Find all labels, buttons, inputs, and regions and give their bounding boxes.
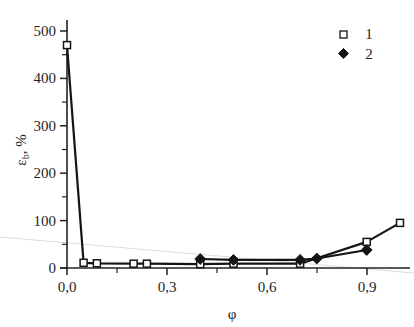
y-axis-title: εb, %: [13, 134, 31, 165]
data-point-marker: [93, 260, 100, 267]
svg-text:εb, %: εb, %: [13, 134, 31, 165]
data-point-marker: [130, 260, 137, 267]
y-tick-label: 100: [34, 213, 57, 229]
figure-background: [0, 0, 414, 327]
legend-label: 1: [365, 26, 373, 42]
y-axis-title-unit: , %: [13, 134, 29, 154]
x-tick-label: 0,9: [358, 279, 377, 295]
data-point-marker: [397, 219, 404, 226]
open-square-icon: [340, 31, 347, 38]
legend-label: 2: [365, 46, 373, 62]
x-tick-label: 0,0: [58, 279, 77, 295]
y-tick-label: 500: [34, 23, 57, 39]
data-point-marker: [80, 259, 87, 266]
data-point-marker: [64, 42, 71, 49]
x-tick-label: 0,3: [158, 279, 177, 295]
y-tick-label: 200: [34, 165, 57, 181]
y-tick-label: 400: [34, 70, 57, 86]
y-tick-label: 300: [34, 118, 57, 134]
y-tick-label: 0: [49, 260, 57, 276]
x-tick-label: 0,6: [258, 279, 277, 295]
x-axis-title: φ: [228, 306, 237, 322]
chart-figure: 0 100 200 300 400 500 0,0 0,3 0,6 0,9 φ …: [0, 0, 414, 327]
data-point-marker: [143, 260, 150, 267]
